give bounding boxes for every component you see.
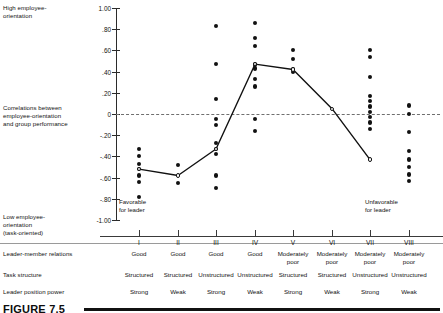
x-tick (139, 230, 140, 236)
x-axis-line (100, 236, 443, 237)
figure-caption: FIGURE 7.5 (0, 303, 443, 313)
y-tick-label: -.60 (100, 174, 111, 181)
y-tick-label: 0 (107, 111, 111, 118)
y-tick-label: 1.00 (99, 5, 111, 12)
caption-rule (84, 308, 440, 311)
x-tick (332, 230, 333, 236)
cell-leader-member-relations: Moderately poor (386, 250, 432, 265)
median-marker (176, 173, 180, 177)
label-y-axis-correlations: Correlations between employee-orientatio… (3, 104, 99, 128)
y-tick-label: -.40 (100, 153, 111, 160)
label-low-employee-orientation: Low employee- orientation (task-oriented… (3, 213, 95, 237)
row-label-task-structure: Task structure (3, 271, 99, 279)
x-tick-label: IV (238, 239, 272, 246)
x-tick-label: III (199, 239, 233, 246)
y-tick-label: -.20 (100, 132, 111, 139)
y-tick-label: .80 (102, 26, 111, 33)
x-tick-label: I (122, 239, 156, 246)
x-tick (216, 230, 217, 236)
figure-employee-orientation-correlations: High employee- orientation Correlations … (0, 0, 443, 313)
x-tick-label: V (276, 239, 310, 246)
median-marker (291, 67, 295, 71)
row-label-leader-position-power: Leader position power (3, 288, 99, 296)
x-tick (409, 230, 410, 236)
x-tick (178, 230, 179, 236)
y-tick-label: -.80 (100, 195, 111, 202)
y-tick-label: .40 (102, 68, 111, 75)
x-tick (293, 230, 294, 236)
scatter-plot-area: 1.00.80.60.40.200-.20-.40-.60-.80-1.00 (116, 8, 440, 220)
y-tick-label: -1.00 (96, 217, 111, 224)
median-marker (368, 157, 372, 161)
figure-number: FIGURE 7.5 (3, 303, 65, 313)
x-tick-label: VI (315, 239, 349, 246)
median-trend-line (116, 8, 440, 220)
x-tick-label: II (161, 239, 195, 246)
label-high-employee-orientation: High employee- orientation (3, 4, 95, 20)
x-tick (255, 230, 256, 236)
x-tick (370, 230, 371, 236)
x-tick-label: VII (353, 239, 387, 246)
y-tick (112, 220, 120, 221)
cell-task-structure: Unstructured (386, 271, 432, 279)
row-label-leader-member-relations: Leader-member relations (3, 250, 99, 258)
y-tick-label: .60 (102, 47, 111, 54)
x-tick-label: VIII (392, 239, 426, 246)
median-marker (330, 107, 334, 111)
cell-leader-position-power: Weak (386, 288, 432, 296)
y-tick-label: .20 (102, 89, 111, 96)
